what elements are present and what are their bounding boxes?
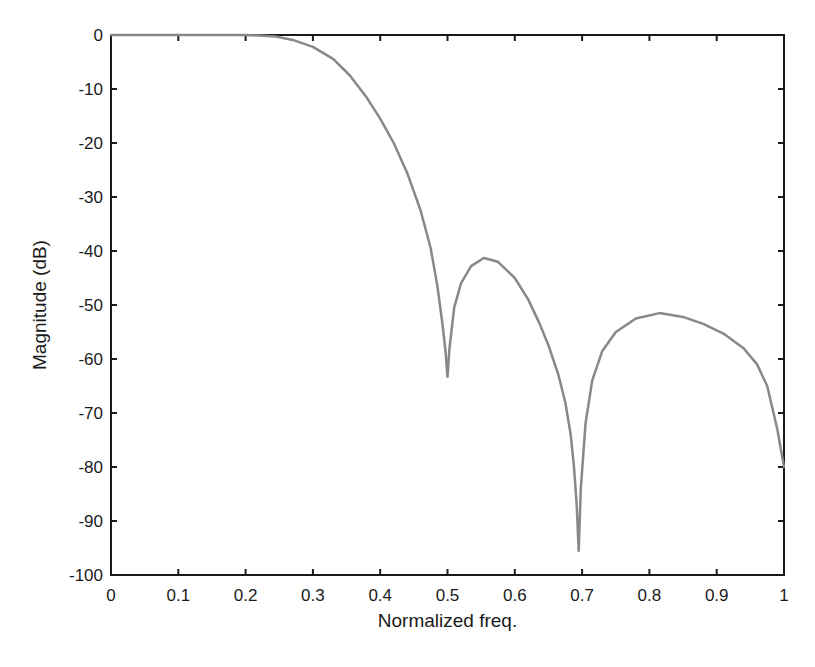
y-tick-label: -10 <box>78 80 103 99</box>
x-tick-label: 0.5 <box>436 586 460 605</box>
magnitude-curve <box>111 35 784 551</box>
plot-border <box>111 35 784 575</box>
y-tick-label: -30 <box>78 188 103 207</box>
x-axis-ticks: 00.10.20.30.40.50.60.70.80.91 <box>106 35 788 605</box>
y-tick-label: 0 <box>94 26 103 45</box>
x-axis-title: Normalized freq. <box>378 610 517 631</box>
y-tick-label: -40 <box>78 242 103 261</box>
x-tick-label: 0 <box>106 586 115 605</box>
y-tick-label: -90 <box>78 512 103 531</box>
y-axis-title: Magnitude (dB) <box>29 240 50 370</box>
x-tick-label: 0.8 <box>638 586 662 605</box>
plot-frame <box>111 35 784 575</box>
x-tick-label: 0.6 <box>503 586 527 605</box>
y-tick-label: -20 <box>78 134 103 153</box>
x-tick-label: 0.1 <box>166 586 190 605</box>
y-tick-label: -80 <box>78 458 103 477</box>
x-tick-label: 0.3 <box>301 586 325 605</box>
y-tick-label: -100 <box>69 566 103 585</box>
y-tick-label: -50 <box>78 296 103 315</box>
x-tick-label: 0.9 <box>705 586 729 605</box>
x-tick-label: 0.4 <box>368 586 392 605</box>
x-tick-label: 0.2 <box>234 586 258 605</box>
series-layer <box>111 35 784 551</box>
magnitude-response-chart: 00.10.20.30.40.50.60.70.80.91 0-10-20-30… <box>0 0 815 667</box>
y-axis-ticks: 0-10-20-30-40-50-60-70-80-90-100 <box>69 26 784 585</box>
y-tick-label: -70 <box>78 404 103 423</box>
x-tick-label: 0.7 <box>570 586 594 605</box>
x-tick-label: 1 <box>779 586 788 605</box>
y-tick-label: -60 <box>78 350 103 369</box>
